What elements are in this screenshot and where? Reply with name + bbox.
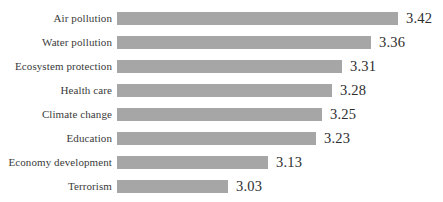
bar-value-label: 3.23 [324, 129, 350, 148]
bar [117, 60, 342, 73]
bar-value-label: 3.28 [340, 81, 366, 100]
bar-chart: Air pollution3.42Water pollution3.36Ecos… [0, 0, 443, 202]
bar-value-label: 3.42 [406, 9, 432, 28]
bar [117, 156, 268, 169]
bar [117, 132, 316, 145]
bar [117, 108, 322, 121]
bar-row: Economy development3.13 [0, 151, 443, 175]
bar-value-label: 3.03 [236, 177, 262, 196]
bar [117, 180, 228, 193]
category-label: Health care [0, 84, 112, 97]
bar [117, 12, 398, 25]
bar-value-label: 3.36 [379, 33, 405, 52]
bar-row: Water pollution3.36 [0, 31, 443, 55]
category-label: Terrorism [0, 180, 112, 193]
bar-row: Terrorism3.03 [0, 175, 443, 199]
bar-row: Air pollution3.42 [0, 7, 443, 31]
category-label: Ecosystem protection [0, 60, 112, 73]
bar [117, 84, 332, 97]
category-label: Economy development [0, 156, 112, 169]
bar-row: Education3.23 [0, 127, 443, 151]
bar [117, 36, 371, 49]
category-label: Water pollution [0, 36, 112, 49]
bar-row: Health care3.28 [0, 79, 443, 103]
bar-row: Climate change3.25 [0, 103, 443, 127]
bar-value-label: 3.31 [350, 57, 376, 76]
plot-area: Air pollution3.42Water pollution3.36Ecos… [0, 0, 443, 202]
bar-row: Ecosystem protection3.31 [0, 55, 443, 79]
category-label: Climate change [0, 108, 112, 121]
category-label: Education [0, 132, 112, 145]
bar-value-label: 3.13 [276, 153, 302, 172]
category-label: Air pollution [0, 12, 112, 25]
bar-value-label: 3.25 [330, 105, 356, 124]
